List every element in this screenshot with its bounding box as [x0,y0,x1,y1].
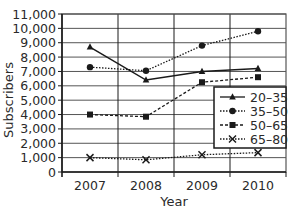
y-tick-label: 9,000 [20,35,56,50]
x-axis-title: Year [159,194,188,209]
x-tick-label: 2010 [242,178,274,193]
square-marker [87,112,93,118]
y-axis-title: Subscribers [1,62,16,138]
line-chart: 01,0002,0003,0004,0005,0006,0007,0008,00… [0,0,293,212]
y-tick-label: 11,000 [12,7,56,22]
y-tick-label: 0 [48,165,56,180]
y-tick-label: 4,000 [20,107,56,122]
y-tick-label: 7,000 [20,64,56,79]
y-tick-label: 2,000 [20,136,56,151]
circle-marker [199,42,205,48]
square-marker [255,74,261,80]
circle-marker [87,64,93,70]
y-axis: 01,0002,0003,0004,0005,0006,0007,0008,00… [12,7,62,180]
y-tick-label: 10,000 [12,21,56,36]
x-tick-label: 2009 [186,178,218,193]
legend-label: 50–65 [250,118,288,133]
triangle-marker [87,43,94,49]
y-tick-label: 3,000 [20,121,56,136]
legend-label: 20–35 [250,90,288,105]
legend-label: 35–50 [250,104,288,119]
y-tick-label: 5,000 [20,93,56,108]
y-tick-label: 6,000 [20,78,56,93]
triangle-marker [255,65,262,71]
legend: 20–3535–5050–6565–80 [214,87,288,148]
square-marker [230,122,236,128]
square-marker [143,114,149,120]
y-tick-label: 1,000 [20,150,56,165]
circle-marker [143,68,149,74]
circle-marker [255,28,261,34]
legend-label: 65–80 [250,132,288,147]
circle-marker [229,108,235,114]
square-marker [199,79,205,85]
x-tick-label: 2008 [130,178,162,193]
y-tick-label: 8,000 [20,50,56,65]
x-tick-label: 2007 [74,178,106,193]
